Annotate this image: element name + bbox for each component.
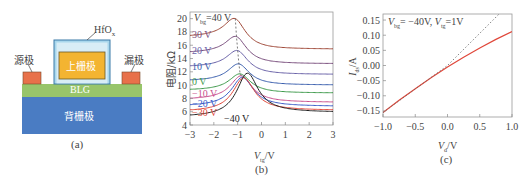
drain-contact — [122, 72, 140, 84]
y-tick-label: −0.10 — [357, 90, 380, 101]
y-tick-label: 6 — [182, 106, 187, 117]
x-tick-label: 3 — [331, 129, 336, 140]
y-tick-label: 12 — [177, 66, 187, 77]
y-tick-label: 14 — [177, 53, 187, 64]
source-label: 源极 — [14, 52, 34, 67]
panel-c-chart: 0.150.100.050.00−0.05−0.10−0.15−1.0−0.50… — [350, 0, 530, 180]
y-axis-label-c: Ids/A — [347, 57, 360, 76]
curve-label: 0 V — [192, 76, 207, 87]
plot-frame-c — [383, 14, 512, 117]
x-tick-label: 0.0 — [441, 121, 454, 132]
panel-b-chart: 201816141210864−3−2−10123 电阻/kΩ Vtg/V (b… — [160, 0, 355, 180]
y-tick-label: 10 — [177, 80, 187, 91]
drain-label: 漏极 — [124, 52, 144, 67]
x-tick-label: 1.0 — [506, 121, 519, 132]
top-gate-label: 上栅极 — [66, 58, 96, 73]
annotation-c: Vbg= −40V, Vtg=1V — [388, 16, 463, 29]
curve-label: 20 V — [192, 45, 212, 56]
curve-label: 30 V — [192, 29, 212, 40]
y-tick-label: 0.00 — [363, 60, 381, 71]
y-axis-label-b: 电阻/kΩ — [163, 51, 178, 88]
hfox-label: HfOx — [94, 24, 115, 38]
curve-label: Vbg=40 V — [194, 12, 231, 25]
y-tick-label: 18 — [177, 26, 187, 37]
curve-label: −30 V — [192, 107, 217, 118]
x-tick-label: −3 — [185, 129, 196, 140]
source-contact — [23, 72, 41, 84]
x-tick-label: 0.5 — [474, 121, 487, 132]
panel-a-schematic: 源极 漏极 HfOx 上栅极 BLG 背栅极 (a) — [0, 0, 170, 180]
x-tick-label: −1.0 — [374, 121, 392, 132]
y-tick-label: 16 — [177, 40, 187, 51]
caption-a: (a) — [71, 138, 83, 150]
y-tick-label: −0.05 — [357, 75, 380, 86]
y-tick-label: 0.10 — [363, 30, 381, 41]
caption-c: (c) — [440, 153, 452, 165]
curve-label: 10 V — [192, 61, 212, 72]
x-tick-label: −1 — [232, 129, 243, 140]
x-axis-label-b: Vtg/V — [254, 150, 275, 163]
x-tick-label: −2 — [209, 129, 220, 140]
y-tick-label: −0.15 — [357, 105, 380, 116]
x-tick-label: −0.5 — [406, 121, 424, 132]
back-gate-label: 背栅极 — [64, 108, 94, 123]
x-tick-label: 0 — [259, 129, 264, 140]
x-axis-label-c: Vd/V — [438, 140, 457, 153]
y-tick-label: 0.05 — [363, 45, 381, 56]
blg-label: BLG — [70, 84, 90, 95]
curve-label: −40 V — [224, 113, 249, 124]
x-tick-label: 1 — [283, 129, 288, 140]
y-tick-label: 20 — [177, 13, 187, 24]
x-tick-label: 2 — [307, 129, 312, 140]
y-tick-label: 0.15 — [363, 15, 381, 26]
y-tick-label: 8 — [182, 93, 187, 104]
caption-b: (b) — [255, 163, 268, 175]
